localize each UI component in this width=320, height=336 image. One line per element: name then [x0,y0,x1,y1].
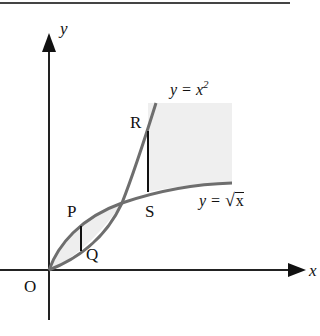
label-root-arg: x [235,192,244,210]
x-axis-arrowhead-icon [288,263,306,277]
diagram-figure: y x O y = x2 y = √x P Q R S [0,0,320,336]
point-label-p: P [67,203,76,220]
sqrt-icon: √ [225,190,235,210]
point-label-q: Q [86,246,98,263]
label-parabola-lhs: y = x [170,81,203,98]
graph-canvas [0,0,320,336]
x-axis-label: x [309,262,317,279]
label-root-lhs: y = [199,192,225,209]
point-label-s: S [145,203,154,220]
shaded-region-right [148,103,232,192]
sqrt-group: √x [225,191,244,210]
point-label-r: R [130,114,141,131]
y-axis-label: y [60,20,68,37]
label-parabola: y = x2 [170,79,209,98]
label-parabola-exponent: 2 [203,78,209,90]
y-axis-arrowhead-icon [42,33,56,52]
origin-label: O [24,278,36,295]
label-root: y = √x [199,191,244,210]
